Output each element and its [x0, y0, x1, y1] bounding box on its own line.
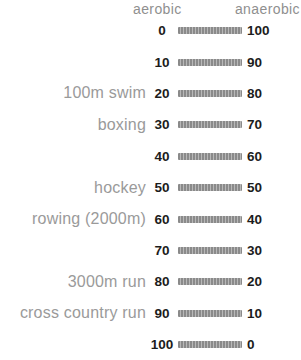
anaerobic-value: 100 — [247, 23, 270, 38]
scale-row: 100m swim 20 80 — [0, 78, 301, 109]
scale-row: 100 0 — [0, 329, 301, 360]
aerobic-value: 100 — [149, 337, 175, 352]
anaerobic-value: 60 — [247, 149, 262, 164]
scale-row: 40 60 — [0, 141, 301, 172]
sport-label: 3000m run — [0, 273, 146, 291]
scale-row: hockey 50 50 — [0, 172, 301, 203]
anaerobic-value: 0 — [247, 337, 255, 352]
anaerobic-value: 90 — [247, 55, 262, 70]
aerobic-value: 70 — [149, 243, 175, 258]
aerobic-value: 60 — [149, 212, 175, 227]
scale-row: 0 100 — [0, 15, 301, 46]
anaerobic-value: 70 — [247, 117, 262, 132]
aerobic-value: 30 — [149, 117, 175, 132]
anaerobic-value: 80 — [247, 86, 262, 101]
scale-row: cross country run 90 10 — [0, 298, 301, 329]
anaerobic-value: 20 — [247, 274, 262, 289]
scale-row: rowing (2000m) 60 40 — [0, 203, 301, 234]
aerobic-value: 20 — [149, 86, 175, 101]
sport-label: hockey — [0, 179, 146, 197]
hatched-bar — [178, 310, 242, 317]
aerobic-value: 10 — [149, 55, 175, 70]
hatched-bar — [178, 153, 242, 160]
aerobic-value: 90 — [149, 306, 175, 321]
sport-label: rowing (2000m) — [0, 210, 146, 228]
scale-row: boxing 30 70 — [0, 109, 301, 140]
aerobic-value: 80 — [149, 274, 175, 289]
anaerobic-value: 50 — [247, 180, 262, 195]
hatched-bar — [178, 121, 242, 128]
aerobic-value: 40 — [149, 149, 175, 164]
sport-label: cross country run — [0, 304, 146, 322]
hatched-bar — [178, 27, 242, 34]
sport-label: boxing — [0, 116, 146, 134]
hatched-bar — [178, 278, 242, 285]
scale-row: 10 90 — [0, 46, 301, 77]
hatched-bar — [178, 184, 242, 191]
hatched-bar — [178, 59, 242, 66]
scale-rows: 0 100 10 90 100m swim 20 80 boxing 30 70… — [0, 15, 301, 360]
hatched-bar — [178, 90, 242, 97]
aerobic-value: 0 — [149, 23, 175, 38]
hatched-bar — [178, 247, 242, 254]
hatched-bar — [178, 216, 242, 223]
scale-row: 70 30 — [0, 235, 301, 266]
scale-row: 3000m run 80 20 — [0, 266, 301, 297]
anaerobic-value: 40 — [247, 212, 262, 227]
anaerobic-value: 30 — [247, 243, 262, 258]
aerobic-value: 50 — [149, 180, 175, 195]
sport-label: 100m swim — [0, 84, 146, 102]
hatched-bar — [178, 341, 242, 348]
anaerobic-value: 10 — [247, 306, 262, 321]
aerobic-anaerobic-scale-figure: aerobic anaerobic 0 100 10 90 100m swim … — [0, 0, 301, 360]
